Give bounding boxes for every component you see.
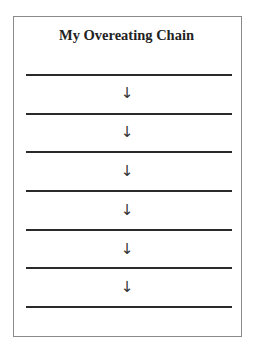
down-arrow-icon: ↓: [120, 280, 134, 295]
down-arrow-icon: ↓: [120, 164, 134, 179]
chain-blank-line-6[interactable]: [26, 267, 232, 269]
worksheet-title: My Overeating Chain: [0, 27, 253, 44]
down-arrow-icon: ↓: [120, 86, 134, 101]
down-arrow-icon: ↓: [120, 125, 134, 140]
down-arrow-icon: ↓: [120, 203, 134, 218]
chain-blank-line-2[interactable]: [26, 113, 232, 115]
chain-blank-line-1[interactable]: [26, 74, 232, 76]
chain-blank-line-7[interactable]: [26, 306, 232, 308]
chain-blank-line-3[interactable]: [26, 151, 232, 153]
chain-blank-line-5[interactable]: [26, 229, 232, 231]
chain-blank-line-4[interactable]: [26, 190, 232, 192]
down-arrow-icon: ↓: [120, 242, 134, 257]
